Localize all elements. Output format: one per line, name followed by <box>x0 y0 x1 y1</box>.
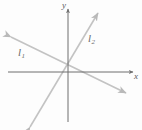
line-l1-label-letter: l <box>18 46 21 58</box>
line-l1-label-subscript: 1 <box>22 52 26 60</box>
line-l2-label: l2 <box>88 33 95 44</box>
x-axis-label: x <box>134 72 138 81</box>
line-l2-label-subscript: 2 <box>92 38 96 46</box>
line-l1-label: l1 <box>18 47 25 58</box>
line-l2 <box>30 13 98 127</box>
line-l2-label-letter: l <box>88 32 91 44</box>
coordinate-plane-figure: y x l1 l2 <box>0 0 142 130</box>
y-axis-label: y <box>62 1 66 10</box>
line-l2-group <box>30 13 98 127</box>
figure-canvas <box>0 0 142 130</box>
